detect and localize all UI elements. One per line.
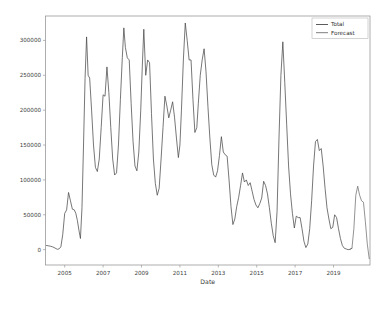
x-tick-label: 2007 [96, 270, 111, 276]
y-tick-label: 0 [37, 247, 41, 253]
legend-label-total[interactable]: Total [330, 21, 345, 27]
y-tick-label: 50000 [23, 212, 41, 218]
x-axis-ticks: 20052007200920112013201520172019 [58, 265, 341, 276]
x-tick-label: 2013 [211, 270, 226, 276]
series-line-total [46, 23, 351, 250]
y-tick-label: 250000 [20, 72, 42, 78]
x-tick-label: 2019 [326, 270, 341, 276]
series-lines [46, 23, 369, 259]
x-tick-label: 2005 [58, 270, 73, 276]
axes-frame [46, 16, 371, 265]
chart-legend[interactable]: TotalForecast [312, 18, 368, 39]
x-tick-label: 2015 [250, 270, 265, 276]
y-tick-label: 300000 [20, 37, 42, 43]
line-chart: 050000100000150000200000250000300000 200… [0, 0, 382, 309]
legend-label-forecast[interactable]: Forecast [331, 30, 355, 36]
x-axis-label: Date [200, 278, 215, 285]
x-tick-label: 2009 [134, 270, 149, 276]
x-tick-label: 2017 [288, 270, 303, 276]
y-tick-label: 150000 [20, 142, 42, 148]
y-tick-label: 100000 [20, 177, 42, 183]
series-line-forecast [350, 186, 369, 259]
chart-figure: 050000100000150000200000250000300000 200… [0, 0, 382, 309]
y-axis-ticks: 050000100000150000200000250000300000 [20, 37, 46, 252]
x-tick-label: 2011 [173, 270, 188, 276]
y-tick-label: 200000 [20, 107, 42, 113]
